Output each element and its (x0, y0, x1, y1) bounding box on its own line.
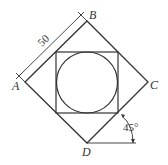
angle-label: 45° (123, 121, 138, 133)
angle-arrowhead (121, 114, 125, 118)
geometry-figure: 50 45° A B C D (0, 0, 168, 165)
inscribed-circle (57, 52, 118, 113)
angle-arrowhead-bottom (131, 139, 135, 143)
vertex-label-b: B (89, 8, 97, 22)
vertex-label-d: D (81, 145, 91, 159)
vertex-label-a: A (11, 79, 20, 93)
dimension-line-ab (16, 12, 87, 82)
vertex-label-c: C (150, 78, 159, 92)
